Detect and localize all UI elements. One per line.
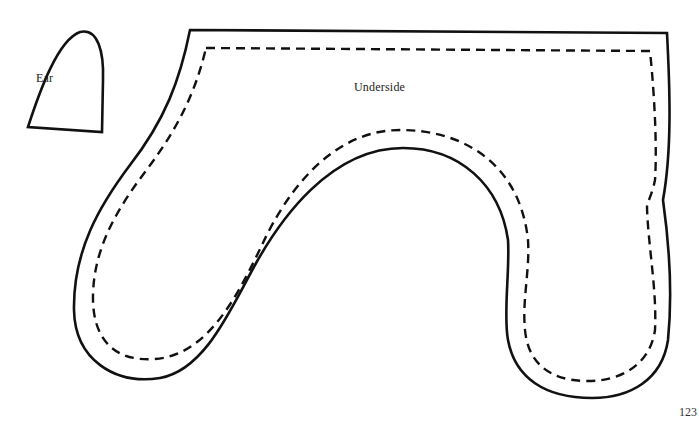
sewing-pattern-sheet bbox=[0, 0, 699, 424]
page-number: 123 bbox=[679, 405, 697, 420]
underside-stitch-line bbox=[93, 48, 656, 381]
ear-label: Ear bbox=[36, 71, 53, 86]
underside-label: Underside bbox=[354, 80, 405, 95]
